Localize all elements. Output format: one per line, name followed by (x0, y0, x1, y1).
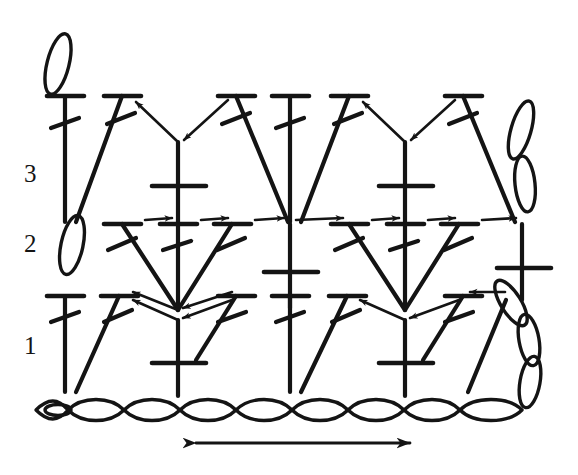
crochet-diagram: 3 2 1 (0, 0, 578, 475)
crochet-chart-svg: 3 2 1 (0, 0, 578, 475)
row-label-3: 3 (24, 160, 37, 187)
row-label-2: 2 (24, 230, 37, 257)
row-label-1: 1 (24, 332, 37, 359)
